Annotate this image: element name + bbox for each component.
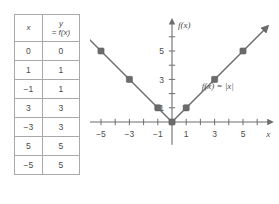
cell-y: 3 (42, 118, 79, 137)
y-tick-label: 5 (159, 46, 164, 56)
data-point-marker (240, 48, 246, 54)
x-tick-label: −1 (153, 129, 163, 139)
table-row: 55 (15, 137, 80, 156)
table-row: 00 (15, 42, 80, 61)
data-point-marker (169, 119, 175, 125)
axes (90, 23, 268, 144)
cell-y: 3 (42, 99, 79, 118)
cell-x: −1 (15, 80, 43, 99)
cell-x: 5 (15, 137, 43, 156)
cell-y: 1 (42, 61, 79, 80)
column-header-y-line2: = f(x) (43, 28, 79, 37)
cell-y: 1 (42, 80, 79, 99)
absolute-value-function-graph: −5−3−1135135 f(x) x f(x) = |x| (90, 0, 279, 204)
cell-x: −3 (15, 118, 43, 137)
table-body: 0011−1133−3355−55 (15, 42, 80, 175)
x-tick-label: 1 (184, 129, 189, 139)
x-tick-label: −5 (96, 129, 106, 139)
table-row: 33 (15, 99, 80, 118)
cell-y: 5 (42, 137, 79, 156)
cell-y: 0 (42, 42, 79, 61)
function-curve (90, 30, 264, 122)
table-row: −55 (15, 156, 80, 175)
table-row: −11 (15, 80, 80, 99)
column-header-x: x (15, 15, 43, 42)
cell-y: 5 (42, 156, 79, 175)
x-tick-label: −3 (125, 129, 135, 139)
column-header-y: y = f(x) (42, 15, 79, 42)
cell-x: −5 (15, 156, 43, 175)
value-table: x y = f(x) 0011−1133−3355−55 (14, 14, 80, 175)
cell-x: 3 (15, 99, 43, 118)
x-axis-label: x (265, 129, 270, 139)
cell-x: 1 (15, 61, 43, 80)
table-header: x y = f(x) (15, 15, 80, 42)
data-point-marker (98, 48, 104, 54)
data-point-marker (183, 105, 189, 111)
absolute-value-polyline (90, 30, 264, 122)
data-point-marker (126, 76, 132, 82)
equation-label: f(x) = |x| (202, 81, 234, 91)
x-tick-label: 3 (212, 129, 217, 139)
y-tick-label: 3 (159, 75, 164, 85)
x-tick-label: 5 (241, 129, 246, 139)
column-header-y-line1: y (43, 19, 79, 28)
table-row: 11 (15, 61, 80, 80)
data-point-marker (155, 105, 161, 111)
table-row: −33 (15, 118, 80, 137)
graph-panel: −5−3−1135135 f(x) x f(x) = |x| (90, 0, 279, 204)
y-axis-label: f(x) (178, 20, 191, 30)
table-header-row: x y = f(x) (15, 15, 80, 42)
cell-x: 0 (15, 42, 43, 61)
